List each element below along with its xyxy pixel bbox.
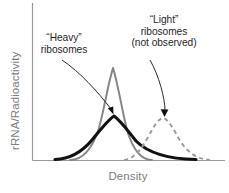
light-annotation-arrowhead (161, 109, 169, 117)
y-axis-label: rRNA/Radioactivity (9, 52, 21, 150)
heavy-annotation-arrow (62, 60, 111, 109)
light-ribosome-curve (124, 118, 210, 160)
light-ribosomes-annotation-label: “Light” ribosomes (not observed) (104, 14, 224, 49)
heavy-annotation-arrowhead (108, 106, 114, 114)
x-axis-label: Density (108, 170, 147, 182)
density-gradient-plot-figure: rRNA/Radioactivity Density “Heavy” ribos… (0, 0, 229, 193)
light-annotation-arrow (150, 60, 165, 111)
heavy-ribosomes-annotation-label: “Heavy” ribosomes (22, 32, 106, 55)
